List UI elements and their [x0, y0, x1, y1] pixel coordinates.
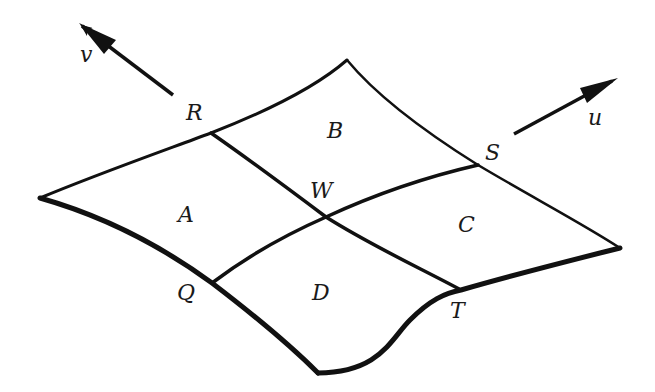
point-label-s: S [485, 140, 500, 165]
region-label-a: A [176, 202, 194, 227]
top-left-boundary-edge [40, 60, 347, 198]
region-label-d: D [311, 280, 330, 305]
u-vector-label: u [588, 105, 602, 130]
top-right-boundary-edge [347, 60, 620, 248]
interior-curve-q-w-s [212, 165, 478, 283]
point-label-t: T [450, 298, 467, 323]
v-vector-label: v [80, 42, 93, 67]
bottom-right-boundary-edge [318, 248, 620, 373]
region-label-b: B [326, 118, 343, 143]
point-label-w: W [310, 178, 335, 203]
point-label-q: Q [177, 280, 195, 305]
region-label-c: C [458, 212, 475, 237]
u-arrowhead-icon [580, 78, 618, 103]
point-label-r: R [185, 100, 203, 125]
surface-patch-diagram: v u R S W Q T A B C D [0, 0, 655, 392]
